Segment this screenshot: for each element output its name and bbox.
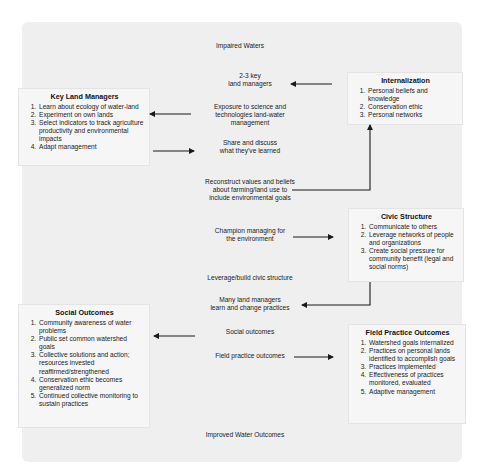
impaired-waters-label: Impaired Waters xyxy=(190,42,290,50)
step-reconstruct: Reconstruct values and beliefs about far… xyxy=(185,178,315,203)
internalization-title: Internalization xyxy=(354,76,457,85)
list-item: Community awareness of water problems xyxy=(38,319,144,335)
key-land-managers-list: Learn about ecology of water-land Experi… xyxy=(25,103,144,152)
field-practice-outcomes-box: Field Practice Outcomes Watershed goals … xyxy=(348,324,466,424)
list-item: Public set common watershed goals xyxy=(38,335,144,351)
list-item: Continued collective monitoring to susta… xyxy=(38,392,144,408)
step-field-practice-outcomes: Field practice outcomes xyxy=(190,352,310,360)
step-champion: Champion managing for the environment xyxy=(192,227,308,243)
social-outcomes-box: Social Outcomes Community awareness of w… xyxy=(18,304,150,428)
list-item: Adapt management xyxy=(38,143,144,151)
list-item: Adaptive management xyxy=(368,388,460,396)
civic-structure-box: Civic Structure Communicate to others Le… xyxy=(348,208,464,282)
social-outcomes-title: Social Outcomes xyxy=(25,308,144,317)
step-many-land-managers: Many land managers learn and change prac… xyxy=(192,296,308,312)
list-item: Communicate to others xyxy=(368,223,458,231)
list-item: Leverage networks of people and organiza… xyxy=(368,231,458,247)
step-key-managers: 2-3 key land managers xyxy=(200,72,300,88)
list-item: Collective solutions and action; resourc… xyxy=(38,351,144,375)
step-leverage: Leverage/build civic structure xyxy=(185,274,315,282)
key-land-managers-box: Key Land Managers Learn about ecology of… xyxy=(18,88,150,166)
list-item: Conservation ethic xyxy=(367,103,457,111)
list-item: Personal beliefs and knowledge xyxy=(367,87,457,103)
list-item: Learn about ecology of water-land xyxy=(38,103,144,111)
improved-water-outcomes-label: Improved Water Outcomes xyxy=(185,431,305,439)
step-share: Share and discuss what they've learned xyxy=(200,139,300,155)
list-item: Personal networks xyxy=(367,111,457,119)
list-item: Practices on personal lands identified t… xyxy=(368,347,460,363)
step-exposure: Exposure to science and technologies lan… xyxy=(192,103,308,128)
list-item: Practices implemented xyxy=(368,363,460,371)
civic-structure-title: Civic Structure xyxy=(355,212,458,221)
internalization-list: Personal beliefs and knowledge Conservat… xyxy=(354,87,457,119)
civic-structure-list: Communicate to others Leverage networks … xyxy=(355,223,458,272)
field-practice-outcomes-list: Watershed goals internalized Practices o… xyxy=(355,339,460,396)
field-practice-outcomes-title: Field Practice Outcomes xyxy=(355,328,460,337)
step-social-outcomes: Social outcomes xyxy=(200,328,300,336)
key-land-managers-title: Key Land Managers xyxy=(25,92,144,101)
list-item: Conservation ethic becomes generalized n… xyxy=(38,376,144,392)
list-item: Effectiveness of practices monitored, ev… xyxy=(368,371,460,387)
internalization-box: Internalization Personal beliefs and kno… xyxy=(347,72,463,125)
list-item: Create social pressure for community ben… xyxy=(368,247,458,271)
list-item: Experiment on own lands xyxy=(38,111,144,119)
list-item: Watershed goals internalized xyxy=(368,339,460,347)
list-item: Select indicators to track agriculture p… xyxy=(38,119,144,143)
social-outcomes-list: Community awareness of water problems Pu… xyxy=(25,319,144,408)
